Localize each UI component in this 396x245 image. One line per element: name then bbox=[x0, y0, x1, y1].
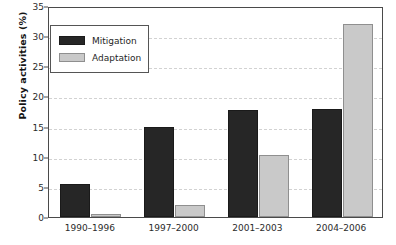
x-axis-tick-label: 1997–2000 bbox=[148, 223, 198, 233]
bar-adaptation bbox=[343, 24, 373, 217]
legend-swatch-adaptation-icon bbox=[59, 53, 85, 62]
bar-adaptation bbox=[91, 214, 121, 217]
y-axis-tick-label: 35 bbox=[16, 2, 44, 12]
legend-item-mitigation: Mitigation bbox=[59, 32, 148, 49]
gridline bbox=[49, 98, 382, 99]
x-axis-tick-label: 1990–1996 bbox=[65, 223, 115, 233]
bar-adaptation bbox=[259, 155, 289, 217]
y-axis-tick-label: 20 bbox=[16, 92, 44, 102]
bar-mitigation bbox=[228, 110, 258, 217]
y-axis-tick-label: 25 bbox=[16, 62, 44, 72]
y-axis-tick-label: 10 bbox=[16, 153, 44, 163]
y-axis-tick-label: 5 bbox=[16, 183, 44, 193]
bar-chart-figure: Policy activities (%) 05101520253035 199… bbox=[0, 0, 396, 245]
legend-item-adaptation: Adaptation bbox=[59, 49, 148, 66]
y-axis-tick-label: 0 bbox=[16, 213, 44, 223]
legend-label-mitigation: Mitigation bbox=[92, 36, 137, 46]
bar-adaptation bbox=[175, 205, 205, 217]
legend-label-adaptation: Adaptation bbox=[92, 53, 141, 63]
bar-mitigation bbox=[60, 184, 90, 217]
chart-legend: Mitigation Adaptation bbox=[50, 25, 149, 73]
bar-mitigation bbox=[144, 127, 174, 217]
legend-swatch-mitigation-icon bbox=[59, 36, 85, 45]
y-axis-tick-label: 15 bbox=[16, 123, 44, 133]
x-axis-tick-label: 2001–2003 bbox=[232, 223, 282, 233]
y-axis-tick-label: 30 bbox=[16, 32, 44, 42]
x-axis-tick-label: 2004–2006 bbox=[316, 223, 366, 233]
bar-mitigation bbox=[312, 109, 342, 218]
